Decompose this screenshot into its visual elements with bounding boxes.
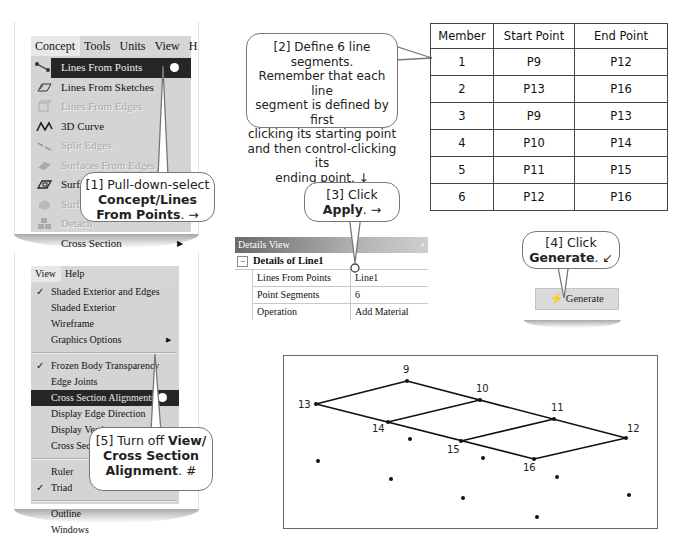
line-segment: [534, 438, 626, 459]
sketch-point[interactable]: [459, 439, 463, 443]
point-label: 9: [403, 364, 409, 375]
sketch-point[interactable]: [555, 475, 559, 479]
sketch-point[interactable]: [532, 457, 536, 461]
sketch-point[interactable]: [316, 459, 320, 463]
point-label: 11: [551, 402, 564, 413]
sketch-point[interactable]: [627, 493, 631, 497]
sketch-point[interactable]: [389, 477, 393, 481]
sketch-point[interactable]: [478, 398, 482, 402]
sketch-point[interactable]: [535, 515, 539, 519]
point-label: 15: [447, 444, 460, 455]
point-label: 12: [627, 423, 640, 434]
point-label: 10: [476, 383, 489, 394]
sketch-point[interactable]: [405, 379, 409, 383]
line-segment: [316, 381, 407, 404]
sketch-point[interactable]: [408, 437, 412, 441]
sketch-point[interactable]: [461, 496, 465, 500]
point-label: 16: [523, 462, 536, 473]
line-segment: [461, 419, 554, 441]
sketch-point[interactable]: [624, 436, 628, 440]
sketch-point[interactable]: [481, 456, 485, 460]
sketch-point[interactable]: [552, 417, 556, 421]
sketch-geometry: 910111213141516: [0, 0, 675, 548]
sketch-point[interactable]: [386, 420, 390, 424]
point-label: 14: [372, 423, 385, 434]
sketch-point[interactable]: [314, 402, 318, 406]
line-segment: [388, 400, 480, 422]
point-label: 13: [298, 399, 311, 410]
